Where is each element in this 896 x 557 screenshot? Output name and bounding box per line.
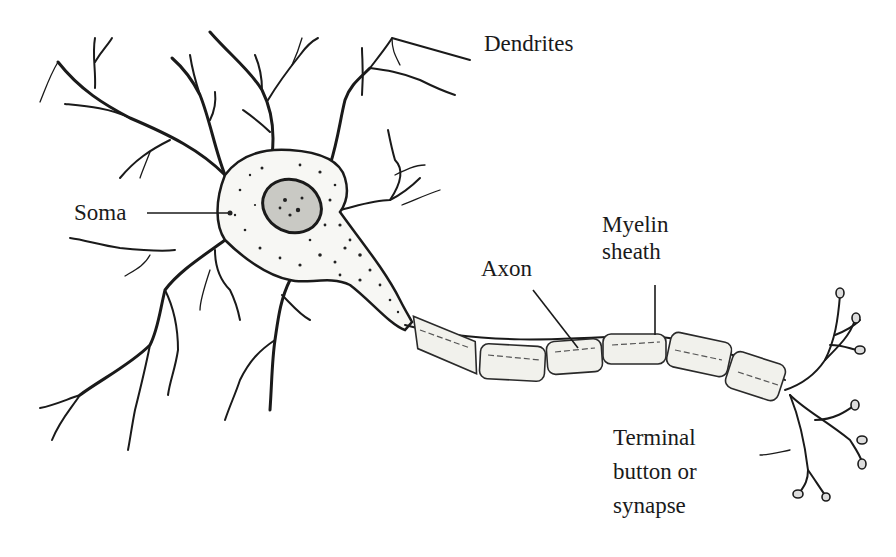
- myelin-label-line2: sheath: [602, 238, 661, 265]
- terminal-label-line3: synapse: [613, 492, 686, 519]
- dendrites-label: Dendrites: [484, 30, 573, 57]
- myelin-sheath: [411, 316, 788, 402]
- neuron-diagram: Dendrites Soma Axon Myelin sheath Termin…: [0, 0, 896, 557]
- terminal-label-line1: Terminal: [613, 424, 696, 451]
- soma-body: [218, 150, 413, 330]
- myelin-label-line1: Myelin: [602, 211, 668, 238]
- soma-label: Soma: [74, 199, 126, 226]
- axon-label: Axon: [481, 255, 532, 282]
- axon: [405, 316, 788, 402]
- neuron-illustration: [0, 0, 896, 557]
- terminal-label-line2: button or: [613, 458, 697, 485]
